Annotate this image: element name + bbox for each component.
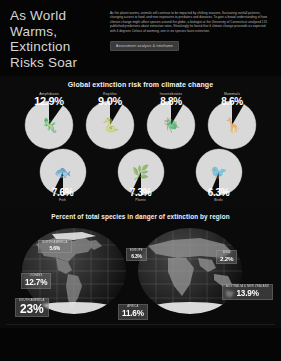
- hero-body-text: As the planet warms, animals will contin…: [110, 11, 271, 33]
- antarctic-ice-right: [146, 302, 233, 314]
- donut-group-amphibians[interactable]: Amphibians 12.9% 🦎: [20, 92, 78, 151]
- amphibians-value: 12.9%: [20, 96, 78, 107]
- infographic-page: As World Warms, Extinction Risks Soar As…: [0, 0, 281, 361]
- donut-row-2: 🐟 7.6% Fish 🌿 7.3%: [0, 145, 281, 202]
- region-tag-oceans[interactable]: Oceans 12.7%: [21, 273, 51, 289]
- donut-group-birds[interactable]: 🐦 6.3% Birds: [188, 147, 250, 202]
- region-tag-asia[interactable]: Asia 2.2%: [216, 250, 237, 264]
- mammals-readout: Mammals 8.6%: [203, 92, 261, 107]
- page-title: As World Warms, Extinction Risks Soar: [10, 8, 102, 70]
- plants-readout: 7.3% Plants: [110, 187, 172, 202]
- region-tag-north-america[interactable]: North America 5.6%: [38, 240, 72, 253]
- donut-group-reptiles[interactable]: Reptiles 9.0% 🐍: [81, 92, 139, 151]
- africa-value: 11.6%: [122, 310, 144, 318]
- hero-section: As World Warms, Extinction Risks Soar As…: [0, 0, 281, 76]
- fish-label: Fish: [32, 198, 94, 202]
- section2-title: Percent of total species in danger of ex…: [0, 208, 281, 222]
- north-america-value: 5.6%: [42, 246, 68, 251]
- reptiles-readout: Reptiles 9.0%: [81, 92, 139, 107]
- donut-group-invertebrates[interactable]: Invertebrates 8.8% 🪲: [142, 92, 200, 151]
- region-tag-australia-new-zealand[interactable]: Australia & New Zealand 13.9%: [222, 284, 273, 300]
- fish-value: 7.6%: [32, 187, 94, 198]
- australia-new-zealand-value: 13.9%: [226, 290, 269, 298]
- plants-label: Plants: [110, 198, 172, 202]
- donut-group-mammals[interactable]: Mammals 8.6% 🦒: [203, 92, 261, 151]
- section1-title: Global extinction risk from climate chan…: [0, 76, 281, 92]
- footer-divider: [6, 324, 275, 325]
- hero-text-column: As the planet warms, animals will contin…: [110, 8, 271, 51]
- south-america-value: 23%: [19, 304, 45, 315]
- asia-value: 2.2%: [220, 256, 233, 262]
- region-tag-europe[interactable]: Europe 6.3%: [126, 248, 147, 261]
- amphibians-readout: Amphibians 12.9%: [20, 92, 78, 107]
- europe-value: 6.3%: [130, 254, 143, 259]
- mammals-value: 8.6%: [203, 96, 261, 107]
- donut-group-fish[interactable]: 🐟 7.6% Fish: [32, 147, 94, 202]
- region-tag-africa[interactable]: Africa 11.6%: [118, 304, 148, 320]
- invertebrates-value: 8.8%: [142, 96, 200, 107]
- donut-row-1: Amphibians 12.9% 🦎 Reptiles 9.0%: [0, 92, 281, 151]
- assessment-analysis-button[interactable]: Assessment analysis & timeframe: [110, 41, 179, 51]
- region-map-section: Percent of total species in danger of ex…: [0, 208, 281, 328]
- fish-readout: 7.6% Fish: [32, 187, 94, 202]
- reptiles-value: 9.0%: [81, 96, 139, 107]
- invertebrates-readout: Invertebrates 8.8%: [142, 92, 200, 107]
- donut-group-plants[interactable]: 🌿 7.3% Plants: [110, 147, 172, 202]
- oceans-value: 12.7%: [25, 279, 47, 287]
- birds-readout: 6.3% Birds: [188, 187, 250, 202]
- world-map[interactable]: North America 5.6% Europe 6.3% Asia 2.2%…: [0, 222, 281, 322]
- globe-eastern-hemisphere: [138, 228, 242, 314]
- global-risk-section: Global extinction risk from climate chan…: [0, 76, 281, 208]
- region-tag-south-america[interactable]: South America 23%: [15, 298, 49, 317]
- birds-value: 6.3%: [188, 187, 250, 198]
- birds-label: Birds: [188, 198, 250, 202]
- plants-value: 7.3%: [110, 187, 172, 198]
